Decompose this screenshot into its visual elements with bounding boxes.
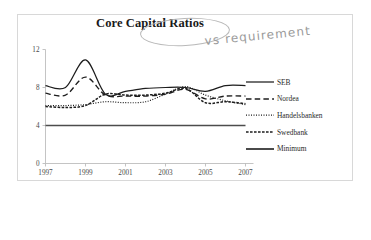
legend-label: Handelsbanken [275, 111, 323, 120]
legend-line-swatch [245, 94, 275, 104]
legend-item-swedbank: Swedbank [245, 124, 350, 141]
x-tick-label: 2003 [158, 169, 173, 177]
tick-labels-layer: 12840199719992001200320052007 [32, 46, 253, 177]
x-tick-label: 1997 [38, 169, 53, 177]
legend-item-seb: SEB [245, 74, 350, 91]
legend-label: Minimum [275, 144, 307, 153]
legend-line-swatch [245, 110, 275, 120]
series-line-seb [46, 60, 246, 96]
chart-legend: SEBNordeaHandelsbankenSwedbankMinimum [245, 74, 350, 157]
legend-item-nordea: Nordea [245, 91, 350, 108]
legend-item-minimum: Minimum [245, 140, 350, 157]
y-tick-label: 0 [36, 160, 40, 168]
legend-item-handelsbanken: Handelsbanken [245, 107, 350, 124]
legend-line-swatch [245, 127, 275, 137]
legend-line-swatch [245, 144, 275, 154]
x-tick-label: 1999 [78, 169, 93, 177]
y-tick-label: 4 [36, 122, 40, 130]
legend-label: Nordea [275, 94, 299, 103]
x-tick-label: 2007 [238, 169, 253, 177]
series-layer [46, 60, 246, 126]
legend-label: SEB [275, 78, 291, 87]
y-tick-label: 8 [36, 84, 40, 92]
x-tick-label: 2005 [198, 169, 213, 177]
y-tick-label: 12 [32, 46, 40, 54]
legend-line-swatch [245, 77, 275, 87]
x-tick-label: 2001 [118, 169, 133, 177]
legend-label: Swedbank [275, 128, 308, 137]
